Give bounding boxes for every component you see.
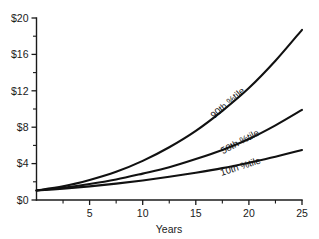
chart-container: $0$4$8$12$16$20 510152025 90th %tile50th… [0,0,319,239]
series-label-10th-tile: 10th %tile [219,155,262,178]
y-tick-label: $12 [11,85,29,97]
series-label-50th-tile: 50th %tile [219,127,261,156]
x-axis-major-ticks [90,200,302,205]
y-tick-label: $4 [17,157,29,169]
x-tick-label: 15 [190,207,202,219]
x-tick-label: 5 [87,207,93,219]
y-tick-label: $16 [11,48,29,60]
x-tick-label: 20 [243,207,255,219]
growth-projection-chart: $0$4$8$12$16$20 510152025 90th %tile50th… [0,0,319,239]
y-tick-label: $8 [17,121,29,133]
x-tick-label: 25 [296,207,308,219]
x-tick-label: 10 [137,207,149,219]
y-tick-label: $0 [17,194,29,206]
y-axis-tick-labels: $0$4$8$12$16$20 [11,12,29,206]
y-tick-label: $20 [11,12,29,24]
data-series-curves [37,30,303,191]
x-axis-tick-labels: 510152025 [87,207,308,219]
x-axis-title: Years [156,223,182,235]
series-inline-labels: 90th %tile50th %tile10th %tile [208,85,262,178]
series-label-90th-tile: 90th %tile [208,85,247,121]
series-curve-50th-tile [37,110,303,191]
